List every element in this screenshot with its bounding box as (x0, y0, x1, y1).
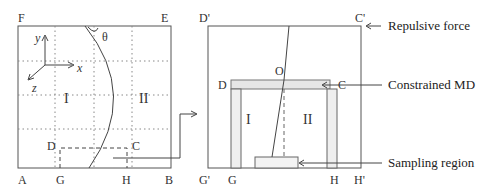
constrained-md-label: Constrained MD (388, 77, 475, 92)
axis-z-label: z (31, 81, 37, 95)
annotations: Repulsive force Constrained MD Sampling … (299, 18, 475, 170)
sampling-region-label: Sampling region (388, 155, 475, 170)
interface-line (272, 26, 289, 157)
label-F: F (18, 11, 25, 25)
label-E: E (161, 11, 168, 25)
axis-y-label: y (34, 31, 41, 45)
label-A: A (18, 173, 27, 187)
region-II-right: II (303, 112, 313, 127)
label-O: O (275, 64, 284, 78)
label-B: B (165, 173, 173, 187)
repulsive-force-label: Repulsive force (388, 18, 470, 33)
region-II-label: II (139, 91, 149, 106)
theta-label: θ (102, 30, 108, 44)
diagram-canvas: F E A G H B D C y x z θ I II D' C' G' G … (0, 0, 492, 193)
label-Dprime: D' (199, 11, 210, 25)
wall-right (327, 89, 337, 168)
region-I-label: I (64, 91, 69, 106)
label-G-right: G (228, 173, 237, 187)
label-D: D (47, 139, 56, 153)
label-G: G (56, 173, 65, 187)
label-Gprime: G' (199, 173, 210, 187)
label-C: C (132, 139, 140, 153)
interface-curve (85, 26, 114, 168)
label-H: H (122, 173, 131, 187)
sampling-box (255, 157, 298, 168)
label-Hprime: H' (354, 173, 365, 187)
label-D-right: D (218, 78, 227, 92)
right-panel: D' C' G' G H H' D C O I II (199, 11, 365, 187)
link-arrow (113, 114, 196, 158)
region-I-right: I (246, 112, 251, 127)
constrained-band (231, 80, 330, 89)
label-H-right: H (330, 173, 339, 187)
label-Cprime: C' (355, 11, 365, 25)
wall-left (231, 89, 241, 168)
left-panel: F E A G H B D C y x z θ I II (18, 11, 197, 187)
axis-x-label: x (76, 61, 83, 75)
theta-arc (88, 27, 98, 31)
